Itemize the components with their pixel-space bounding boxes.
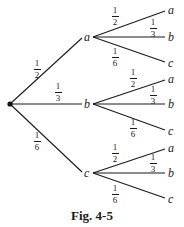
leaf-b-b: b	[168, 98, 174, 110]
leaf-b-a: a	[168, 73, 174, 85]
leaf-a-a: a	[168, 4, 174, 16]
leaf-c-a: a	[168, 142, 174, 154]
leaf-b-c: c	[168, 125, 173, 137]
prob-a-b: 13	[148, 18, 158, 39]
node-b: b	[84, 98, 90, 110]
edge-root-c	[10, 104, 82, 172]
prob-b-a: 12	[128, 68, 138, 89]
prob-b-c: 16	[128, 118, 138, 139]
prob-c-b: 13	[148, 153, 158, 174]
prob-c-a: 12	[110, 143, 120, 164]
prob-root-c: 16	[32, 131, 42, 152]
figure-caption: Fig. 4-5	[0, 208, 184, 224]
leaf-c-c: c	[168, 193, 173, 205]
prob-a-c: 16	[110, 47, 120, 68]
root-node	[7, 101, 12, 106]
node-c: c	[84, 167, 89, 179]
node-a: a	[84, 31, 90, 43]
prob-root-a: 12	[32, 59, 42, 80]
edge-root-a	[10, 38, 82, 104]
prob-a-a: 12	[110, 6, 120, 27]
leaf-a-c: c	[168, 57, 173, 69]
prob-root-b: 13	[53, 82, 63, 103]
leaf-c-b: b	[168, 167, 174, 179]
prob-b-b: 13	[148, 85, 158, 106]
prob-c-c: 16	[110, 184, 120, 205]
leaf-a-b: b	[168, 31, 174, 43]
